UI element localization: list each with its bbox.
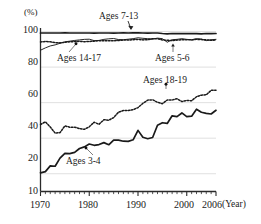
leader-dot-18-19 [165, 83, 168, 86]
series-line-ages-3-4 [41, 109, 217, 173]
series-line-ages-18-19 [41, 90, 217, 133]
leader-ages-14-17 [69, 45, 76, 53]
leader-ages-3-4 [87, 149, 94, 156]
leader-dot-14-17 [75, 42, 78, 45]
chart-container: (%) 100 80 60 40 20 10 1970 1980 1990 20… [0, 0, 261, 224]
series-line-ages-5-6 [41, 38, 217, 50]
leader-arrowhead-7-13 [128, 26, 133, 30]
series-line-ages-7-13 [41, 33, 217, 34]
chart-plot-area [0, 0, 261, 224]
gridlines [41, 32, 217, 174]
leader-arrowhead-5-6 [171, 44, 175, 47]
x-axis-tick-marks [41, 192, 217, 197]
leader-dot-3-4 [85, 147, 88, 150]
